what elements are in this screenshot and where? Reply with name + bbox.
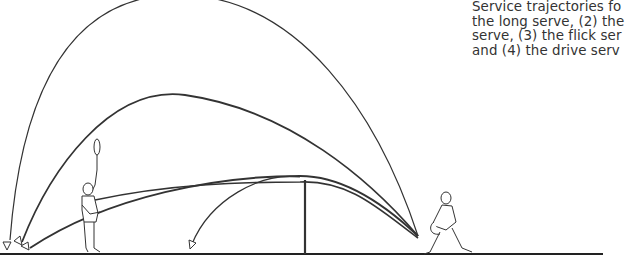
caption-line: Service trajectories fo (472, 0, 629, 15)
figure-caption: Service trajectories fo the long serve, … (472, 0, 629, 58)
trajectory-short-serve (192, 176, 300, 244)
shuttle-marker-1 (3, 242, 11, 250)
shuttle-marker-2 (14, 236, 22, 245)
caption-line: serve, (3) the flick ser (472, 29, 629, 44)
receiver-player (82, 139, 100, 252)
trajectory-drive-serve (95, 182, 418, 238)
player-head (83, 183, 93, 195)
shuttle-marker-5 (189, 240, 196, 249)
player-head (441, 192, 451, 204)
server-player (424, 192, 472, 254)
racket-head (94, 139, 100, 155)
caption-line: the long serve, (2) the (472, 15, 629, 30)
shuttle-marker-3 (21, 242, 29, 250)
trajectory-long-serve (10, 0, 418, 240)
caption-line: and (4) the drive serv (472, 44, 629, 59)
